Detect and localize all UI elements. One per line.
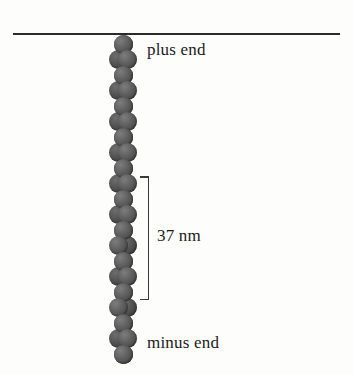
bracket-tick-bottom	[140, 299, 149, 301]
actin-filament	[103, 44, 143, 352]
actin-subunit	[114, 345, 133, 364]
bracket-spine	[148, 176, 150, 300]
plus-end-label: plus end	[147, 40, 206, 60]
horizontal-divider	[13, 33, 340, 35]
actin-filament-figure: plus end 37 nm minus end	[0, 0, 353, 375]
minus-end-label: minus end	[147, 333, 219, 353]
scale-label: 37 nm	[157, 226, 201, 246]
scale-bracket	[140, 176, 149, 300]
